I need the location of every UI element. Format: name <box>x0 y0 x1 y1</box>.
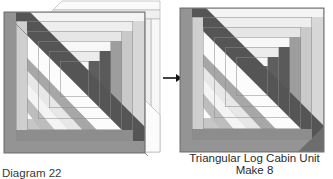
right-block-body <box>180 8 324 152</box>
left-log-cabin-block <box>4 1 160 156</box>
right-arrow-icon <box>163 74 182 82</box>
right-caption: Triangular Log Cabin Unit Make 8 <box>176 152 333 177</box>
right-caption-line-1: Triangular Log Cabin Unit <box>189 152 320 164</box>
right-caption-line-2: Make 8 <box>176 164 333 176</box>
right-triangular-log-cabin-unit <box>180 8 324 152</box>
left-caption: Diagram 22 <box>2 167 112 179</box>
